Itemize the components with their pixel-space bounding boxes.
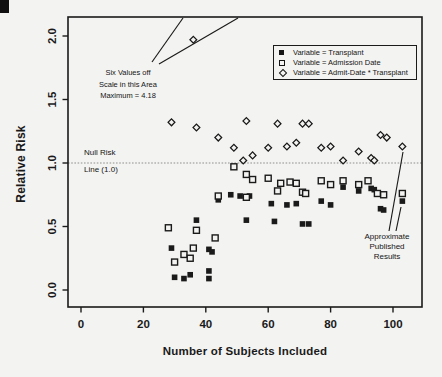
annotation-published-results: Approximate Published Results <box>347 232 427 262</box>
x-axis-label: Number of Subjects Included <box>68 345 422 357</box>
annotation-off-scale-line3: Maximum = 4.18 <box>78 90 178 102</box>
x-tick-label: 20 <box>137 318 150 330</box>
x-tick-label: 100 <box>383 318 402 330</box>
y-tick-label: 2.0 <box>46 28 58 44</box>
annotation-published-line2: Published <box>347 242 427 252</box>
y-tick-label: 1.5 <box>46 91 58 108</box>
filled-square-icon <box>279 50 293 55</box>
y-tick-label: 0.5 <box>46 218 58 235</box>
y-tick-label: 0.0 <box>46 282 58 298</box>
x-tick-label: 0 <box>78 318 84 330</box>
annotation-published-line1: Approximate <box>347 232 427 242</box>
legend-label: Variable = Admit-Date * Transplant <box>293 68 408 77</box>
legend-label: Variable = Transplant <box>293 48 364 57</box>
legend-item-admit-date-transplant: Variable = Admit-Date * Transplant <box>279 68 416 78</box>
annotation-off-scale: Six Values off Scale in this Area Maximu… <box>78 67 178 102</box>
x-tick-label: 60 <box>262 318 275 330</box>
annotation-null-risk-line2: Line (1.0) <box>84 165 118 174</box>
x-tick-label: 80 <box>324 318 337 330</box>
figure-root: 0204060801002.01.51.00.50.0 Relative Ris… <box>0 0 442 377</box>
open-square-icon <box>279 60 293 66</box>
legend-box: Variable = Transplant Variable = Admissi… <box>273 45 417 80</box>
annotation-off-scale-line2: Scale in this Area <box>78 79 178 91</box>
x-tick-label: 40 <box>199 318 212 330</box>
y-axis-label: Relative Risk <box>14 104 28 224</box>
open-diamond-icon <box>279 70 293 76</box>
legend-item-admission-date: Variable = Admission Date <box>279 58 416 68</box>
annotation-null-risk-line1: Null Risk <box>84 148 116 157</box>
legend-label: Variable = Admission Date <box>293 58 381 67</box>
y-tick-label: 1.0 <box>46 155 58 171</box>
annotation-off-scale-line1: Six Values off <box>78 67 178 79</box>
legend-item-transplant: Variable = Transplant <box>279 47 416 57</box>
annotation-published-line3: Results <box>347 252 427 262</box>
